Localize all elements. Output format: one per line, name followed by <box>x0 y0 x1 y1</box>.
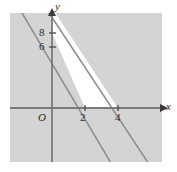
x-tick-label-4: 4 <box>115 112 121 123</box>
origin-label: O <box>38 112 46 123</box>
y-axis-label: y <box>55 1 60 12</box>
graph-figure: y x O 8 6 2 4 <box>0 0 177 172</box>
x-axis-label: x <box>166 101 171 112</box>
y-tick-label-8: 8 <box>39 27 45 38</box>
x-tick-label-2: 2 <box>80 112 86 123</box>
y-tick-label-6: 6 <box>39 41 45 52</box>
plot-canvas <box>0 0 177 172</box>
